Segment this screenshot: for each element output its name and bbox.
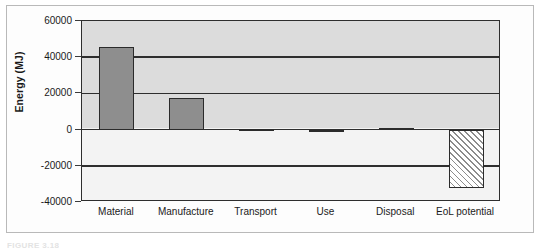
figure-root: Energy (MJ) 6000040000200000-20000-40000… bbox=[0, 0, 542, 248]
plot-area bbox=[81, 20, 500, 201]
x-label-material: Material bbox=[98, 206, 134, 217]
bars-layer bbox=[82, 21, 499, 200]
x-label-eol-potential: EoL potential bbox=[436, 206, 494, 217]
bar-manufacture[interactable] bbox=[169, 98, 204, 130]
y-tick-label: 40000 bbox=[20, 51, 72, 62]
y-tick-label: 20000 bbox=[20, 87, 72, 98]
bar-eol-potential[interactable] bbox=[449, 130, 484, 189]
x-label-transport: Transport bbox=[234, 206, 276, 217]
bar-use[interactable] bbox=[309, 130, 344, 132]
y-tick-label: -40000 bbox=[20, 196, 72, 207]
energy-bar-chart: Energy (MJ) 6000040000200000-20000-40000… bbox=[0, 0, 542, 248]
y-axis-tick-labels: 6000040000200000-20000-40000 bbox=[20, 0, 72, 248]
bar-material[interactable] bbox=[99, 47, 134, 129]
x-label-use: Use bbox=[317, 206, 335, 217]
figure-caption: FIGURE 3.18 bbox=[7, 241, 59, 248]
x-label-disposal: Disposal bbox=[376, 206, 414, 217]
y-tick-label: 0 bbox=[20, 123, 72, 134]
y-tick-label: -20000 bbox=[20, 159, 72, 170]
x-label-manufacture: Manufacture bbox=[158, 206, 214, 217]
x-axis-category-labels: MaterialManufactureTransportUseDisposalE… bbox=[81, 206, 500, 224]
bar-disposal[interactable] bbox=[379, 128, 414, 130]
y-tick-mark bbox=[75, 201, 81, 202]
bar-transport[interactable] bbox=[239, 129, 274, 131]
y-tick-label: 60000 bbox=[20, 15, 72, 26]
